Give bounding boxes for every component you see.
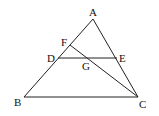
label-E: E: [119, 52, 126, 64]
segment-FC: [70, 45, 138, 97]
label-C: C: [139, 98, 146, 110]
label-D: D: [47, 52, 55, 64]
triangle-figure: A B C D E F G: [0, 0, 159, 116]
label-G: G: [82, 60, 90, 72]
label-F: F: [61, 36, 67, 48]
label-B: B: [14, 96, 21, 108]
label-A: A: [89, 6, 97, 18]
geometry-diagram: A B C D E F G: [0, 0, 159, 116]
